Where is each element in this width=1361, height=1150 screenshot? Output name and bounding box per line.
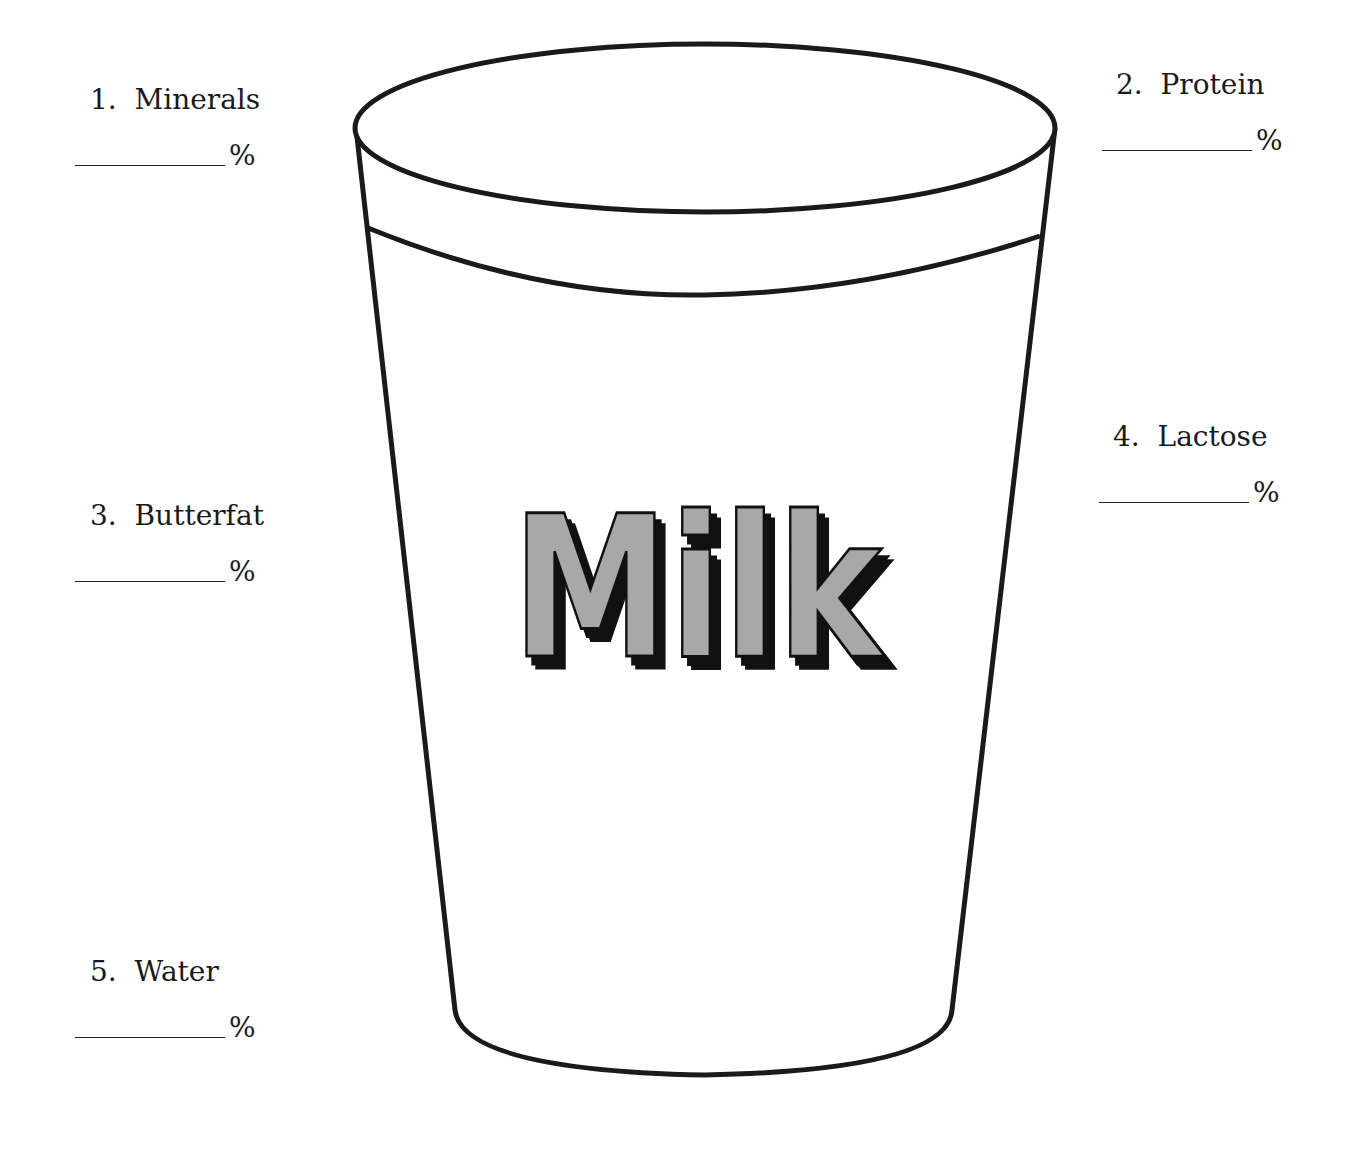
answer-blank-protein[interactable]: %	[1102, 121, 1283, 155]
component-label-protein: 2. Protein	[1116, 71, 1264, 99]
component-name: Lactose	[1158, 420, 1268, 453]
milk-title-face: Milk	[512, 474, 886, 702]
percent-sign: %	[229, 1014, 256, 1042]
answer-blank-water[interactable]: %	[75, 1008, 256, 1042]
component-name: Butterfat	[135, 499, 264, 532]
glass-rim	[355, 44, 1055, 212]
component-name: Water	[135, 955, 219, 988]
answer-blank-lactose[interactable]: %	[1099, 473, 1280, 507]
component-label-water: 5. Water	[90, 958, 219, 986]
answer-line[interactable]	[1099, 501, 1249, 503]
answer-blank-minerals[interactable]: %	[75, 136, 256, 170]
percent-sign: %	[229, 558, 256, 586]
answer-line[interactable]	[1102, 149, 1252, 151]
component-number: 2.	[1116, 68, 1143, 101]
milk-title: Milk Milk Milk	[512, 474, 896, 714]
component-name: Protein	[1161, 68, 1265, 101]
component-number: 1.	[90, 83, 117, 116]
component-number: 3.	[90, 499, 117, 532]
answer-blank-butterfat[interactable]: %	[75, 552, 256, 586]
answer-line[interactable]	[75, 580, 225, 582]
component-label-lactose: 4. Lactose	[1113, 423, 1268, 451]
component-label-minerals: 1. Minerals	[90, 86, 260, 114]
percent-sign: %	[229, 142, 256, 170]
component-label-butterfat: 3. Butterfat	[90, 502, 264, 530]
component-number: 4.	[1113, 420, 1140, 453]
component-name: Minerals	[135, 83, 261, 116]
percent-sign: %	[1256, 127, 1283, 155]
answer-line[interactable]	[75, 1036, 225, 1038]
percent-sign: %	[1253, 479, 1280, 507]
component-number: 5.	[90, 955, 117, 988]
answer-line[interactable]	[75, 164, 225, 166]
